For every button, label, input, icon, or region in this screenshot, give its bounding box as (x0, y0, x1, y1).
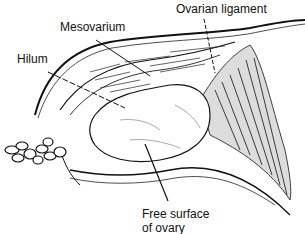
ovary-illustration (0, 0, 305, 234)
label-free-surface-line1: Free surface (142, 208, 209, 221)
label-ovarian-ligament: Ovarian ligament (176, 3, 267, 16)
label-hilum: Hilum (17, 53, 48, 66)
label-mesovarium: Mesovarium (60, 21, 125, 34)
label-free-surface-line2: of ovary (142, 222, 185, 234)
